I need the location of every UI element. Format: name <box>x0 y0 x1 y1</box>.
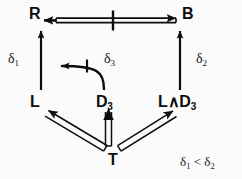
edge-t-to-d3 <box>103 108 113 146</box>
diagram-canvas: R B L D3 L∧D3 T δ1 δ3 δ2 δ1 < δ2 <box>0 0 242 179</box>
node-l: L <box>30 94 40 110</box>
node-l-and-d3: L∧D3 <box>158 94 196 110</box>
edge-t-to-l-and-d3-tail-cap <box>118 146 121 152</box>
node-r: R <box>29 6 40 22</box>
edge-t-to-l-and-d3-line-a <box>121 117 177 152</box>
diagram-edges <box>0 0 242 179</box>
node-b: B <box>182 6 193 22</box>
edge-t-to-l-line-b <box>45 116 104 151</box>
edge-t-to-l-line-a <box>49 111 108 146</box>
edge-t-to-l-and-d3 <box>118 111 177 151</box>
edge-t-to-l <box>45 111 107 152</box>
edge-label-delta-1: δ1 <box>8 52 19 66</box>
edge-r-b-negated-biconditional <box>44 11 176 31</box>
constraint-delta1-lt-delta2: δ1 < δ2 <box>180 155 215 168</box>
edge-label-delta-2: δ2 <box>196 52 207 66</box>
edge-t-to-l-and-d3-line-b <box>118 111 174 146</box>
node-d3: D3 <box>96 94 113 110</box>
node-t: T <box>108 152 118 168</box>
edge-d3-to-l-curve <box>62 66 104 89</box>
edge-label-delta-3: δ3 <box>104 52 115 66</box>
edge-d3-to-l-curved-negated <box>62 60 104 90</box>
